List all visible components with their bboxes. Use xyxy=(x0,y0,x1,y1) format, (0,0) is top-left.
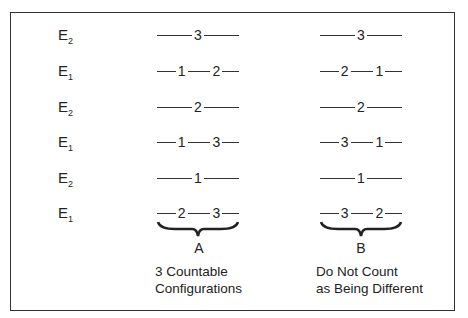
level-line xyxy=(367,107,402,108)
column-b-caption: Do Not Count as Being Different xyxy=(316,263,423,297)
level-line xyxy=(320,71,339,72)
level-b: 2 xyxy=(320,99,402,115)
level-line xyxy=(157,142,176,143)
caption-a-line1: 3 Countable xyxy=(155,263,242,280)
level-line xyxy=(188,71,211,72)
level-b: 3 xyxy=(320,27,402,43)
level-line xyxy=(204,178,239,179)
particle-number: 1 xyxy=(176,63,188,79)
level-line xyxy=(385,213,402,214)
level-a: 23 xyxy=(157,205,239,221)
energy-label: E1 xyxy=(58,63,73,85)
level-line xyxy=(320,142,339,143)
level-a: 12 xyxy=(157,63,239,79)
particle-number: 1 xyxy=(355,170,367,186)
level-line xyxy=(222,71,239,72)
caption-b-line1: Do Not Count xyxy=(316,263,423,280)
energy-label: E2 xyxy=(58,99,73,121)
level-line xyxy=(204,107,239,108)
level-a: 2 xyxy=(157,99,239,115)
energy-label: E2 xyxy=(58,27,73,49)
energy-subscript: 1 xyxy=(68,72,73,82)
energy-subscript: 2 xyxy=(68,108,73,118)
level-line xyxy=(157,35,192,36)
level-a: 3 xyxy=(157,27,239,43)
level-b: 31 xyxy=(320,134,402,150)
level-line xyxy=(351,213,374,214)
energy-subscript: 1 xyxy=(68,214,73,224)
column-a-caption: 3 Countable Configurations xyxy=(155,263,242,297)
level-line xyxy=(320,35,355,36)
column-b-label: B xyxy=(351,240,371,256)
level-b: 32 xyxy=(320,205,402,221)
energy-subscript: 2 xyxy=(68,179,73,189)
particle-number: 1 xyxy=(373,134,385,150)
particle-number: 3 xyxy=(192,27,204,43)
level-a: 13 xyxy=(157,134,239,150)
particle-number: 1 xyxy=(373,63,385,79)
energy-label: E1 xyxy=(58,205,73,227)
brace-a xyxy=(157,220,239,238)
level-line xyxy=(157,178,192,179)
level-line xyxy=(385,71,402,72)
particle-number: 1 xyxy=(192,170,204,186)
level-line xyxy=(157,107,192,108)
brace-b xyxy=(320,220,402,238)
energy-label: E1 xyxy=(58,134,73,156)
energy-subscript: 2 xyxy=(68,36,73,46)
particle-number: 2 xyxy=(339,63,351,79)
level-line xyxy=(351,71,374,72)
level-line xyxy=(157,71,176,72)
particle-number: 3 xyxy=(210,205,222,221)
energy-label: E2 xyxy=(58,170,73,192)
level-line xyxy=(351,142,374,143)
level-line xyxy=(222,142,239,143)
column-a-label: A xyxy=(189,240,209,256)
level-line xyxy=(222,213,239,214)
level-line xyxy=(188,213,211,214)
level-line xyxy=(188,142,211,143)
particle-number: 2 xyxy=(192,99,204,115)
level-line xyxy=(157,213,176,214)
level-line xyxy=(385,142,402,143)
level-b: 1 xyxy=(320,170,402,186)
level-b: 21 xyxy=(320,63,402,79)
particle-number: 2 xyxy=(373,205,385,221)
caption-b-line2: as Being Different xyxy=(316,280,423,297)
level-line xyxy=(367,178,402,179)
level-line xyxy=(367,35,402,36)
caption-a-line2: Configurations xyxy=(155,280,242,297)
level-line xyxy=(320,107,355,108)
energy-subscript: 1 xyxy=(68,143,73,153)
particle-number: 3 xyxy=(339,205,351,221)
level-line xyxy=(204,35,239,36)
level-line xyxy=(320,178,355,179)
level-line xyxy=(320,213,339,214)
particle-number: 3 xyxy=(355,27,367,43)
particle-number: 3 xyxy=(210,134,222,150)
particle-number: 2 xyxy=(176,205,188,221)
particle-number: 2 xyxy=(210,63,222,79)
level-a: 1 xyxy=(157,170,239,186)
particle-number: 3 xyxy=(339,134,351,150)
particle-number: 1 xyxy=(176,134,188,150)
particle-number: 2 xyxy=(355,99,367,115)
